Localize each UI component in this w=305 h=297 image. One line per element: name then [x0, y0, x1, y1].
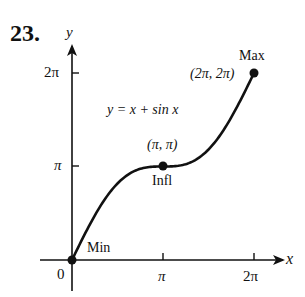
- problem-number: 23.: [10, 20, 40, 47]
- x-tick-label-pi: π: [158, 268, 166, 285]
- infl-label: Infl: [152, 173, 172, 189]
- x-tick-label-2pi: 2π: [243, 268, 258, 285]
- max-label: Max: [239, 48, 265, 64]
- min-label: Min: [87, 240, 110, 256]
- min-point: [68, 256, 77, 265]
- max-point: [250, 69, 259, 78]
- inflection-point: [159, 162, 168, 171]
- y-tick-label-pi: π: [54, 157, 62, 174]
- infl-coord-label: (π, π): [147, 137, 177, 153]
- origin-label: 0: [57, 266, 65, 283]
- x-axis-label: x: [286, 250, 293, 268]
- max-coord-label: (2π, 2π): [190, 66, 234, 82]
- equation-label: y = x + sin x: [107, 102, 178, 118]
- y-tick-label-2pi: 2π: [44, 64, 59, 81]
- y-axis-label: y: [66, 24, 73, 41]
